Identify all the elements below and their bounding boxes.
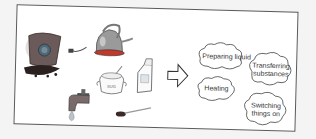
diagram-page: SUG (0, 0, 316, 139)
cloud-label-transferring-substances: Transferring substances (252, 62, 290, 79)
cloud-label-line: substances (252, 70, 290, 79)
milk-carton-icon (137, 59, 152, 93)
cloud-label-preparing-liquid: Preparing liquid (202, 52, 242, 61)
sugar-bowl-icon: SUG (97, 65, 127, 94)
cloud-label-line: things on (247, 109, 285, 118)
coffee-bag-icon (24, 33, 61, 78)
electric-kettle-icon (68, 24, 133, 57)
cloud-label-heating: Heating (201, 84, 231, 93)
diagram-frame: SUG (13, 4, 298, 131)
sugar-label: SUG (107, 84, 116, 89)
arrow-right-icon (168, 64, 189, 87)
spoon-icon (116, 107, 151, 117)
water-faucet-icon (69, 89, 90, 122)
cloud-label-switching-things-on: Switching things on (247, 101, 285, 118)
